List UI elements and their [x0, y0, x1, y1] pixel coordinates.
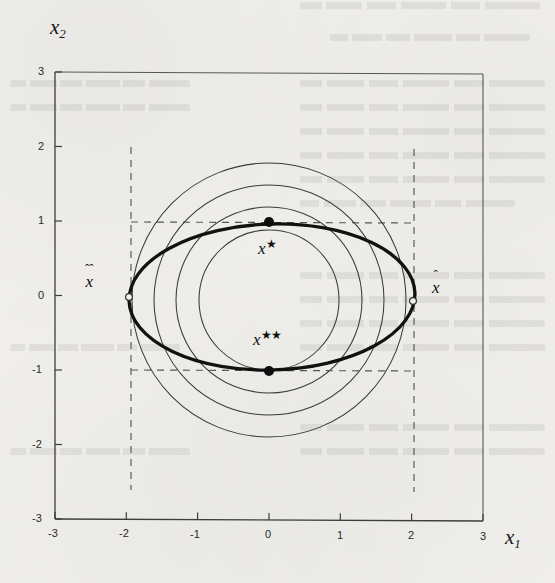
objective-contour-4 — [132, 163, 406, 437]
x-tick-3: 3 — [480, 530, 486, 542]
x-tick-m2: -2 — [119, 527, 129, 539]
y-tick-2: 2 — [38, 140, 44, 152]
marker-x-hat-left — [126, 294, 133, 301]
y-tick-m1: -1 — [32, 363, 42, 375]
axis-frame — [55, 72, 483, 521]
x-tick-m1: -1 — [190, 528, 200, 540]
label-x-star: x★ — [258, 237, 276, 259]
label-x-star-star: x★★ — [253, 328, 282, 350]
label-x-hat-left: ˆˆ x — [85, 266, 94, 290]
objective-contour-circles — [132, 163, 406, 437]
label-x-star-star-marks: ★★ — [261, 328, 282, 342]
label-x-hat-left-base: x — [85, 273, 94, 290]
x-axis-title-base: x — [505, 525, 514, 549]
marker-x-star-star — [264, 366, 274, 376]
y-tick-m2: -2 — [32, 438, 42, 450]
y-tick-1: 1 — [38, 214, 44, 226]
y-tick-3: 3 — [38, 65, 44, 77]
label-x-hat-right-base: x — [432, 279, 440, 296]
marker-x-star — [264, 217, 274, 227]
x-tick-2: 2 — [408, 529, 414, 541]
y-axis-title-base: x — [50, 15, 59, 39]
marker-x-hat-right — [410, 298, 417, 305]
label-x-star-marks: ★ — [266, 237, 277, 251]
x-tick-0: 0 — [265, 528, 271, 540]
plot-canvas — [0, 0, 555, 583]
label-x-hat-right: ˆ x — [432, 272, 440, 296]
y-axis-ticks — [55, 72, 62, 519]
x-axis-title-subscript: 1 — [514, 536, 521, 551]
x-axis-title: x1 — [505, 525, 521, 552]
dashed-tangent-lines — [131, 147, 414, 492]
y-tick-0: 0 — [38, 289, 44, 301]
y-tick-m3: -3 — [32, 512, 42, 524]
x-tick-m3: -3 — [48, 527, 58, 539]
y-axis-title: x2 — [50, 15, 66, 42]
x-tick-1: 1 — [337, 529, 343, 541]
y-axis-title-subscript: 2 — [59, 26, 66, 41]
label-x-star-base: x — [258, 239, 266, 258]
label-x-star-star-base: x — [253, 330, 261, 349]
